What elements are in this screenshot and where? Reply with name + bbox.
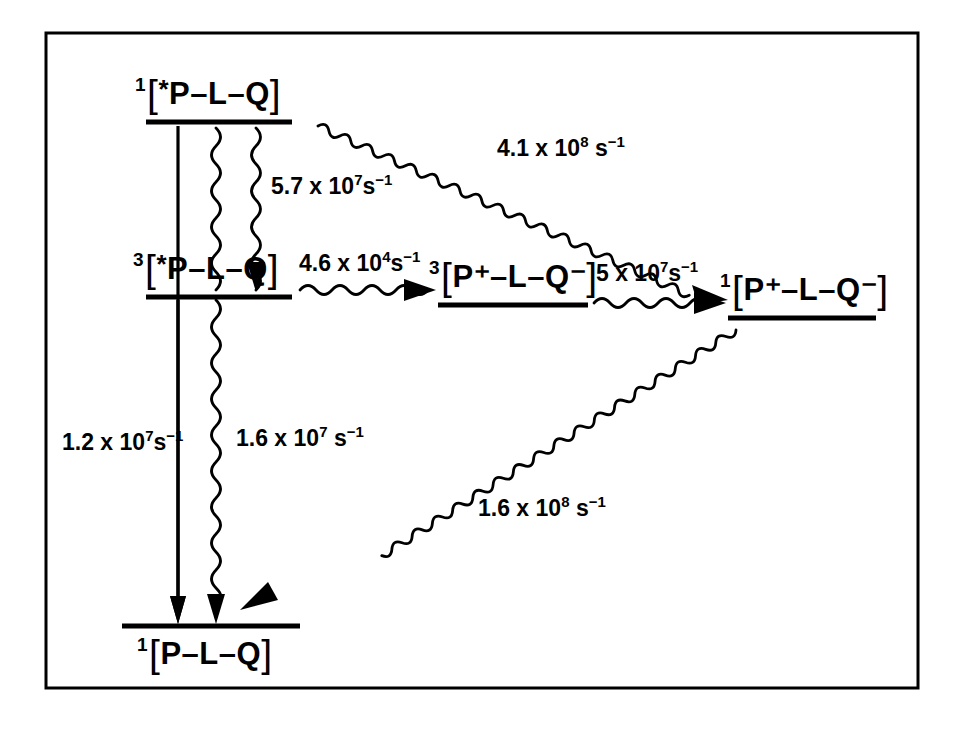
- rate-unit-16e8: s: [576, 495, 589, 521]
- state-label-singlet-radical-pair: 1[P⁺–L–Q⁻]: [720, 270, 888, 309]
- state-label-t1-excited-triplet: 3[*P–L–Q]: [133, 249, 279, 288]
- state-close-bracket-t1: ]: [268, 247, 279, 290]
- rate-exponent-16e8: 8: [561, 493, 569, 510]
- rate-unit-16e7: s: [334, 425, 347, 451]
- rate-label-s1-to-singlet-rp: 4.1 x 108 s−1: [497, 134, 625, 160]
- rate-unit-exponent-41e8: −1: [608, 133, 625, 150]
- rate-mantissa-46e4: 4.6 x 10: [299, 250, 382, 276]
- rate-unit-isc: s: [362, 173, 375, 199]
- state-multiplicity-singlet-rp: 1: [720, 270, 731, 291]
- state-formula-singlet-rp: P⁺–L–Q⁻: [743, 272, 877, 307]
- rate-mantissa-16e8: 1.6 x 10: [478, 495, 561, 521]
- rate-label-t1-radiative-to-ground: 1.2 x 107s−1: [62, 428, 183, 454]
- state-formula-t1: P–L–Q: [167, 251, 268, 286]
- rate-unit-exponent-isc: −1: [375, 171, 392, 188]
- rate-unit-12e7: s: [153, 429, 166, 455]
- state-formula-ground: P–L–Q: [160, 636, 261, 671]
- state-star-s1: *: [158, 74, 169, 104]
- rate-label-triplet-rp-to-singlet-rp: 5 x 107s−1: [596, 259, 698, 285]
- rate-unit-exponent-16e7: −1: [347, 423, 364, 440]
- rate-unit-exponent-16e8: −1: [589, 493, 606, 510]
- state-close-bracket-singlet-rp: ]: [877, 268, 888, 311]
- rate-mantissa-12e7: 1.2 x 10: [62, 429, 145, 455]
- rate-mantissa-41e8: 4.1 x 10: [497, 135, 580, 161]
- rate-unit-exponent-12e7: −1: [166, 427, 183, 444]
- rate-unit-exponent-5e7: −1: [681, 258, 698, 275]
- state-multiplicity-ground: 1: [137, 634, 148, 655]
- rate-unit-exponent-46e4: −1: [403, 248, 420, 265]
- state-label-s1-excited-singlet: 1[*P–L–Q]: [135, 74, 281, 113]
- state-open-bracket-s1: [: [147, 72, 158, 115]
- rate-unit-46e4: s: [390, 250, 403, 276]
- state-close-bracket-ground: ]: [261, 632, 272, 675]
- arrow-t1-to-triplet-radical-pair: [300, 279, 436, 301]
- state-open-bracket-triplet-rp: [: [441, 255, 452, 298]
- state-multiplicity-s1: 1: [135, 74, 146, 95]
- state-open-bracket-singlet-rp: [: [732, 268, 743, 311]
- state-close-bracket-s1: ]: [270, 72, 281, 115]
- state-open-bracket-t1: [: [145, 247, 156, 290]
- rate-mantissa-16e7: 1.6 x 10: [236, 425, 319, 451]
- state-open-bracket-ground: [: [149, 632, 160, 675]
- state-multiplicity-t1: 3: [133, 249, 144, 270]
- arrow-t1-to-ground-straight: [170, 300, 186, 624]
- rate-unit-41e8: s: [595, 135, 608, 161]
- state-multiplicity-triplet-rp: 3: [429, 257, 440, 278]
- arrow-singlet-rp-to-ground: [240, 327, 738, 610]
- rate-unit-5e7: s: [668, 260, 681, 286]
- arrow-t1-to-ground-wavy: [207, 300, 225, 624]
- rate-mantissa-5e7: 5 x 10: [596, 260, 660, 286]
- state-label-triplet-radical-pair: 3[P⁺–L–Q⁻]: [429, 257, 597, 296]
- rate-mantissa-isc: 5.7 x 10: [271, 173, 354, 199]
- rate-label-t1-to-triplet-rp: 4.6 x 104s−1: [299, 249, 420, 275]
- rate-exponent-16e7: 7: [319, 423, 327, 440]
- state-formula-triplet-rp: P⁺–L–Q⁻: [452, 259, 586, 294]
- rate-label-t1-nonradiative-to-ground: 1.6 x 107 s−1: [236, 424, 364, 450]
- rate-label-isc-s1-t1: 5.7 x 107s−1: [271, 172, 392, 198]
- state-formula-s1: P–L–Q: [169, 76, 270, 111]
- state-label-ground-state: 1[P–L–Q]: [137, 634, 272, 673]
- rate-label-charge-recombination-to-ground: 1.6 x 108 s−1: [478, 494, 606, 520]
- energy-level-diagram: 1[*P–L–Q] 3[*P–L–Q] 3[P⁺–L–Q⁻] 1[P⁺–L–Q⁻…: [0, 0, 964, 735]
- state-star-t1: *: [156, 249, 167, 279]
- rate-exponent-41e8: 8: [580, 133, 588, 150]
